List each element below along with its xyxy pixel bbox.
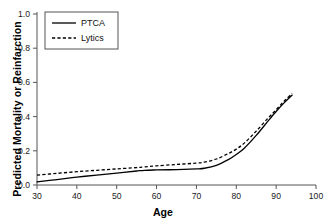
x-tick-label: 80	[232, 191, 242, 201]
x-tick-label: 60	[152, 191, 162, 201]
y-tick-marks	[33, 14, 37, 185]
x-tick-label: 90	[271, 191, 281, 201]
chart-figure: PTCA Lytics 30405060708090100 0.00.20.40…	[0, 0, 326, 224]
x-tick-label: 30	[32, 191, 42, 201]
x-axis-title: Age	[0, 206, 326, 218]
y-axis-title: Predicted Mortality or Reinfarction	[11, 9, 23, 209]
series-line-ptca	[37, 95, 292, 182]
x-tick-label: 70	[192, 191, 202, 201]
legend-label-ptca: PTCA	[81, 18, 105, 28]
series-line-lytics	[37, 94, 292, 176]
x-tick-marks	[37, 185, 316, 189]
x-tick-label: 100	[309, 191, 323, 201]
x-tick-label: 50	[112, 191, 122, 201]
legend-label-lytics: Lytics	[81, 33, 104, 43]
x-tick-label: 40	[72, 191, 82, 201]
